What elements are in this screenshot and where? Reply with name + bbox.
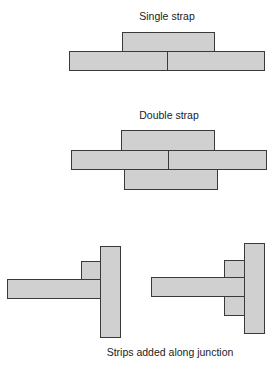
left-t-added-strip [81,261,101,280]
double-strap-bottom [124,169,218,190]
right-t-added-strip-top [224,260,245,278]
right-t-vertical-bar [244,243,265,334]
single-plank-left [69,51,168,71]
double-strap-top [121,130,215,151]
right-t-horizontal-bar [151,277,245,297]
junction-caption: Strips added along junction [107,346,234,358]
single-plank-right [167,51,265,71]
double-plank-right [168,150,267,170]
left-t-vertical-bar [100,246,121,338]
double-strap-caption: Double strap [139,109,199,121]
left-t-horizontal-bar [7,279,101,299]
single-strap-top [122,32,215,52]
right-t-added-strip-bottom [224,296,245,316]
double-plank-left [71,150,169,170]
single-strap-caption: Single strap [139,10,194,22]
